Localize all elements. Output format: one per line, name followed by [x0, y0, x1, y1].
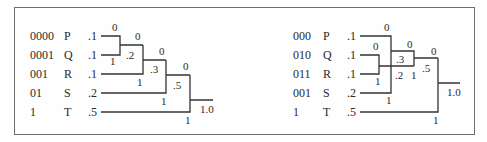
right-tree: 000 P .1 010 Q .1 011 R .1 001 S .2 1 T …	[293, 21, 461, 126]
right-prob-r: .1	[347, 67, 356, 81]
right-sum-node1: .2	[395, 69, 403, 81]
left-prob-s: .2	[88, 86, 97, 100]
right-bit-0: 0	[373, 40, 379, 52]
right-sum-node2: .3	[396, 53, 405, 65]
right-prob-p: .1	[347, 29, 356, 43]
left-bit-0: 0	[112, 21, 118, 33]
right-sum-root: 1.0	[447, 86, 461, 98]
right-bit-0: 0	[431, 45, 437, 57]
left-code-t: 1	[30, 105, 36, 119]
left-sum-node3: .5	[173, 79, 182, 91]
left-bit-1: 1	[137, 76, 143, 88]
right-bit-1: 1	[411, 69, 417, 81]
right-symbol-s: S	[323, 86, 330, 100]
right-code-q: 010	[293, 48, 311, 62]
right-symbol-q: Q	[323, 48, 332, 62]
right-code-p: 000	[293, 29, 311, 43]
right-bit-0: 0	[384, 21, 390, 33]
left-bit-0: 0	[159, 45, 165, 57]
left-symbol-r: R	[64, 67, 72, 81]
right-prob-q: .1	[347, 48, 356, 62]
right-prob-t: .5	[347, 105, 356, 119]
left-code-s: 01	[30, 86, 42, 100]
left-sum-node2: .3	[150, 63, 159, 75]
left-tree: 0000 P .1 0001 Q .1 001 R .1 01 S .2 1 T…	[30, 21, 214, 126]
left-sum-root: 1.0	[200, 103, 214, 115]
left-symbol-p: P	[64, 29, 71, 43]
left-bit-1: 1	[185, 114, 191, 126]
right-bit-1: 1	[386, 94, 392, 106]
left-bit-1: 1	[110, 55, 116, 67]
left-symbol-t: T	[64, 105, 72, 119]
right-symbol-r: R	[323, 67, 331, 81]
right-prob-s: .2	[347, 86, 356, 100]
left-code-p: 0000	[30, 29, 54, 43]
left-prob-q: .1	[88, 48, 97, 62]
left-bit-0: 0	[135, 30, 141, 42]
left-code-q: 0001	[30, 48, 54, 62]
right-code-s: 001	[293, 86, 311, 100]
left-prob-t: .5	[88, 105, 97, 119]
left-code-r: 001	[30, 67, 48, 81]
right-code-r: 011	[293, 67, 311, 81]
right-symbol-p: P	[323, 29, 330, 43]
left-symbol-s: S	[64, 86, 71, 100]
left-prob-p: .1	[88, 29, 97, 43]
right-sum-node3: .5	[422, 62, 431, 74]
right-symbol-t: T	[323, 105, 331, 119]
left-bit-1: 1	[161, 95, 167, 107]
huffman-trees-figure: 0000 P .1 0001 Q .1 001 R .1 01 S .2 1 T…	[0, 0, 487, 142]
left-bit-0: 0	[183, 60, 189, 72]
right-bit-1: 1	[375, 75, 381, 87]
left-symbol-q: Q	[64, 48, 73, 62]
right-bit-0: 0	[407, 38, 413, 50]
right-bit-1: 1	[433, 114, 439, 126]
right-code-t: 1	[293, 105, 299, 119]
left-prob-r: .1	[88, 67, 97, 81]
left-sum-node1: .2	[126, 49, 134, 61]
